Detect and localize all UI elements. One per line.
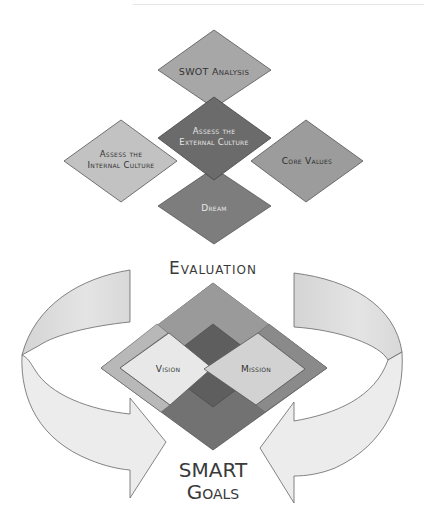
swot-analysis-diamond: SWOT Analysis [158,30,271,108]
external-culture-label-line1: Assess the [193,126,236,136]
strategic-planning-diagram: SWOT Analysis Assess the Internal Cultur… [0,0,424,523]
top-diamond-cluster: SWOT Analysis Assess the Internal Cultur… [64,30,363,244]
vision-label: Vision [156,364,181,374]
internal-culture-label-line1: Assess the [100,149,143,159]
smart-goals-label-line2: Goals [187,480,240,504]
core-values-label: Core Values [282,156,332,166]
external-culture-label-line2: External Culture [179,137,248,147]
external-culture-diamond: Assess the External Culture [158,97,271,180]
evaluation-label: Evaluation [169,258,257,278]
dream-label: Dream [201,203,227,213]
smart-goals-label-line1: SMART [179,458,248,482]
swot-analysis-label: SWOT Analysis [179,66,250,77]
left-arrow-upper-band [22,270,130,355]
mission-label: Mission [241,364,271,374]
internal-culture-diamond: Assess the Internal Culture [64,120,177,202]
core-values-diamond: Core Values [251,120,363,202]
internal-culture-label-line2: Internal Culture [88,160,155,170]
right-arrow-upper-band [294,273,402,360]
